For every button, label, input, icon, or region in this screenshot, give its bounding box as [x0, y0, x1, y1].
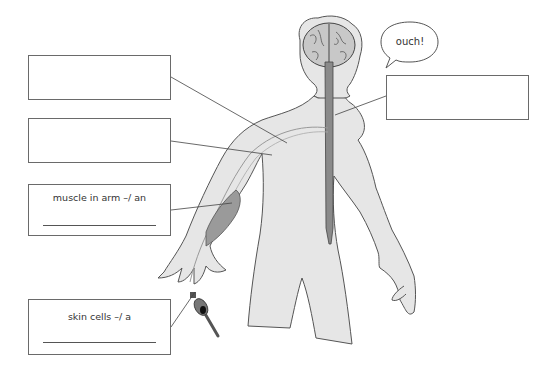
body-silhouette	[158, 16, 416, 344]
match-stimulus	[190, 292, 218, 336]
label-box-5[interactable]	[386, 75, 529, 120]
skin-answer-line[interactable]	[43, 342, 156, 343]
muscle-answer-line[interactable]	[43, 225, 156, 226]
label-box-1[interactable]	[28, 55, 171, 100]
muscle-label-text: muscle in arm –/ an	[29, 192, 170, 203]
speech-bubble-text: ouch!	[380, 36, 440, 47]
brain	[303, 23, 355, 67]
label-box-2[interactable]	[28, 118, 171, 163]
label-box-skin[interactable]: skin cells –/ a	[28, 299, 171, 355]
spinal-cord	[325, 62, 333, 244]
skin-label-text: skin cells –/ a	[29, 311, 170, 322]
label-box-muscle[interactable]: muscle in arm –/ an	[28, 184, 171, 236]
